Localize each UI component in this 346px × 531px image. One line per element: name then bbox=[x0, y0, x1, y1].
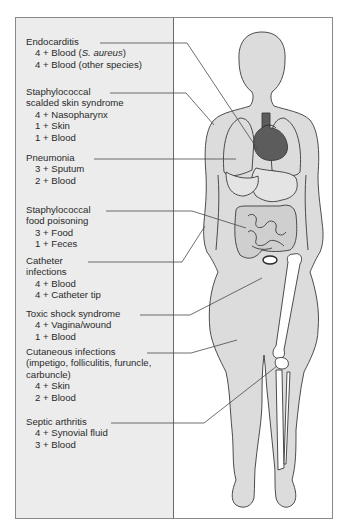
culture-item: 4 + Skin bbox=[26, 380, 151, 391]
condition-title: Toxic shock syndrome bbox=[26, 308, 120, 319]
label-pneumonia: Pneumonia 3 + Sputum 2 + Blood bbox=[26, 152, 84, 186]
culture-item: 4 + Blood (S. aureus) bbox=[26, 47, 142, 58]
condition-title-cont: food poisoning bbox=[26, 215, 91, 226]
culture-item: 3 + Blood bbox=[26, 439, 108, 450]
culture-item: 3 + Sputum bbox=[26, 163, 84, 174]
culture-item: 1 + Blood bbox=[26, 132, 124, 143]
culture-item: 2 + Blood bbox=[26, 175, 84, 186]
large-intestine bbox=[235, 205, 297, 258]
condition-title: Endocarditis bbox=[26, 36, 142, 47]
condition-title: Pneumonia bbox=[26, 152, 84, 163]
label-catheter: Catheter infections 4 + Blood 4 + Cathet… bbox=[26, 255, 101, 301]
condition-title: Catheter bbox=[26, 255, 101, 266]
label-endocarditis: Endocarditis 4 + Blood (S. aureus) 4 + B… bbox=[26, 36, 142, 70]
condition-title-cont: infections bbox=[26, 266, 101, 277]
culture-item: 4 + Synovial fluid bbox=[26, 427, 108, 438]
culture-item: 4 + Nasopharynx bbox=[26, 109, 124, 120]
body-silhouette bbox=[204, 32, 323, 507]
culture-item: 4 + Vagina/wound bbox=[26, 319, 120, 330]
culture-item: 2 + Blood bbox=[26, 392, 151, 403]
organism-name: S. aureus bbox=[82, 47, 123, 58]
label-cutaneous: Cutaneous infections (impetigo, follicul… bbox=[26, 346, 151, 403]
culture-item: 3 + Food bbox=[26, 227, 91, 238]
condition-title-cont: scalded skin syndrome bbox=[26, 97, 124, 108]
label-septic-arthritis: Septic arthritis 4 + Synovial fluid 3 + … bbox=[26, 416, 108, 450]
catheter-site bbox=[263, 256, 277, 264]
label-food-poisoning: Staphylococcal food poisoning 3 + Food 1… bbox=[26, 204, 91, 250]
leader-ssss bbox=[110, 93, 214, 125]
leader-catheter bbox=[88, 226, 205, 262]
knee-patella bbox=[275, 357, 288, 369]
culture-item: 1 + Feces bbox=[26, 238, 91, 249]
condition-title-cont: (impetigo, folliculitis, furuncle, bbox=[26, 357, 151, 368]
condition-title: Cutaneous infections bbox=[26, 346, 151, 357]
culture-item: 4 + Catheter tip bbox=[26, 289, 101, 300]
condition-title: Septic arthritis bbox=[26, 416, 108, 427]
culture-item: 4 + Blood bbox=[26, 278, 101, 289]
condition-title-cont: carbuncle) bbox=[26, 369, 151, 380]
condition-title: Staphylococcal bbox=[26, 86, 124, 97]
culture-item: 1 + Skin bbox=[26, 120, 124, 131]
culture-item: 1 + Blood bbox=[26, 331, 120, 342]
culture-item: 4 + Blood (other species) bbox=[26, 59, 142, 70]
condition-title: Staphylococcal bbox=[26, 204, 91, 215]
label-ssss: Staphylococcal scalded skin syndrome 4 +… bbox=[26, 86, 124, 143]
label-tss: Toxic shock syndrome 4 + Vagina/wound 1 … bbox=[26, 308, 120, 342]
